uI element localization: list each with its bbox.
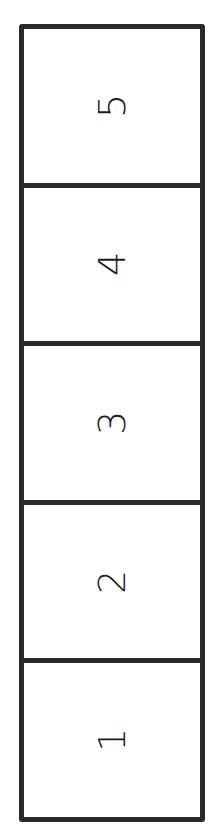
- stack-cell-1: 1: [24, 658, 200, 817]
- stack-diagram: 5 4 3 2 1: [19, 24, 205, 822]
- cell-label: 2: [93, 569, 131, 593]
- cell-label: 5: [93, 94, 131, 118]
- cell-label: 1: [93, 728, 131, 752]
- stack-cell-4: 4: [24, 183, 200, 342]
- stack-cell-3: 3: [24, 341, 200, 500]
- stack-cell-2: 2: [24, 500, 200, 659]
- stack-cell-5: 5: [24, 29, 200, 183]
- cell-label: 3: [93, 411, 131, 435]
- cell-label: 4: [93, 252, 131, 276]
